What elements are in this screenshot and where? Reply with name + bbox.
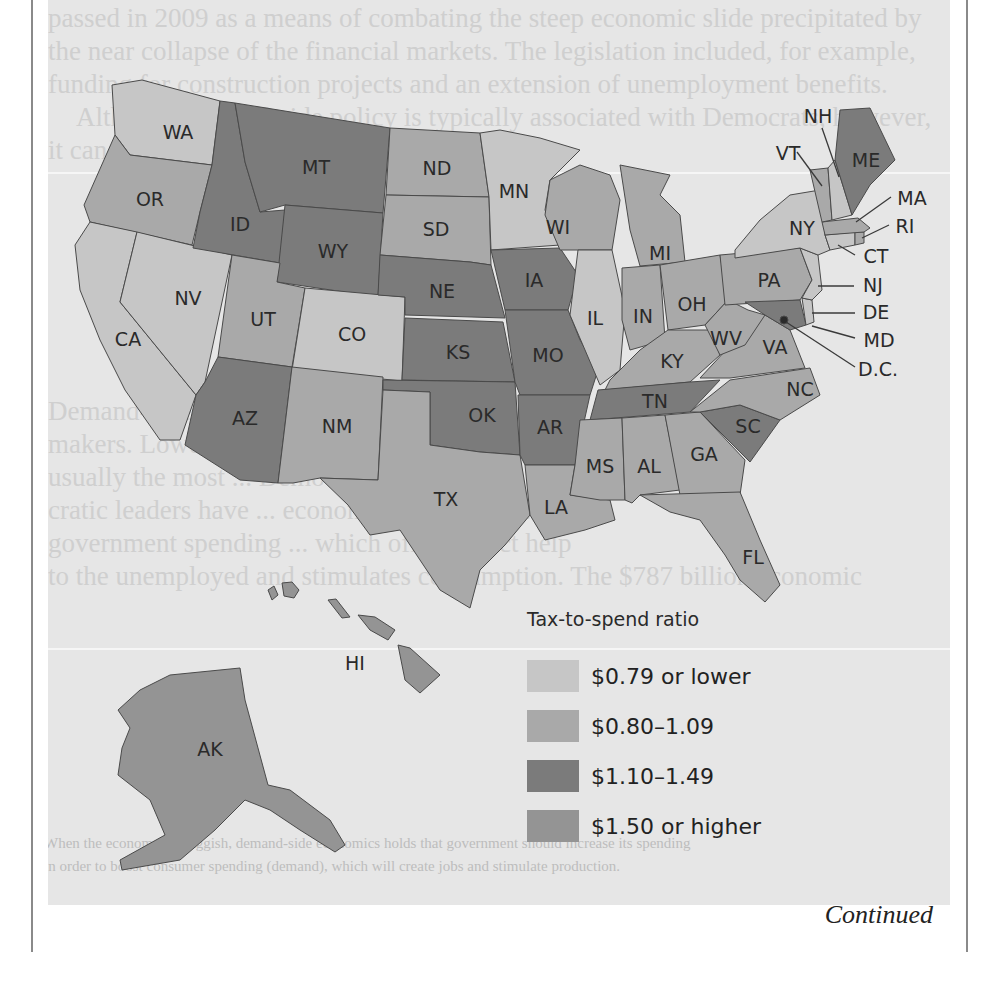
label-OR: OR [136, 188, 164, 210]
label-CT: CT [864, 245, 889, 267]
label-TN: TN [641, 390, 668, 412]
label-ND: ND [423, 157, 452, 179]
legend-item: $0.80–1.09 [527, 710, 714, 742]
legend-title: Tax-to-spend ratio [527, 608, 699, 630]
legend-label: $1.10–1.49 [591, 764, 714, 789]
leader-MA [856, 197, 891, 222]
legend-item: $1.50 or higher [527, 810, 761, 842]
label-NV: NV [174, 287, 201, 309]
label-IL: IL [587, 307, 604, 329]
label-MT: MT [302, 156, 330, 178]
legend-label: $0.79 or lower [591, 664, 751, 689]
label-TX: TX [433, 488, 459, 510]
state-HI-island [398, 645, 440, 693]
legend-swatch [527, 760, 579, 792]
label-PA: PA [757, 269, 780, 291]
label-AR: AR [537, 416, 563, 438]
label-CO: CO [338, 323, 366, 345]
label-NE: NE [429, 280, 455, 302]
label-WA: WA [163, 121, 194, 143]
leader-MD [812, 326, 855, 338]
label-IA: IA [525, 269, 544, 291]
legend-label: $1.50 or higher [591, 814, 761, 839]
label-NC: NC [786, 378, 813, 400]
state-HI-island [282, 582, 299, 598]
state-RI [855, 232, 864, 245]
label-ME: ME [852, 149, 880, 171]
legend-swatch [527, 810, 579, 842]
label-IN: IN [633, 305, 653, 327]
label-GA: GA [690, 443, 718, 465]
state-HI-island [268, 586, 278, 600]
label-AL: AL [637, 455, 661, 477]
label-WI: WI [546, 216, 570, 238]
label-LA: LA [544, 496, 568, 518]
continued-label: Continued [825, 900, 933, 930]
label-UT: UT [250, 308, 276, 330]
label-KY: KY [660, 350, 684, 372]
label-NM: NM [322, 415, 353, 437]
legend-label: $0.80–1.09 [591, 714, 714, 739]
state-HI-island [358, 615, 395, 640]
state-AK [118, 668, 345, 870]
legend-item: $1.10–1.49 [527, 760, 714, 792]
label-OK: OK [468, 404, 496, 426]
label-MD: MD [863, 329, 894, 351]
label-MO: MO [532, 344, 563, 366]
label-AZ: AZ [232, 407, 258, 429]
state-NY [735, 190, 830, 258]
label-CA: CA [115, 328, 141, 350]
label-AK: AK [197, 738, 223, 760]
label-NJ: NJ [863, 274, 883, 296]
state-HI-island [328, 599, 350, 618]
label-FL: FL [742, 546, 764, 568]
legend-swatch [527, 710, 579, 742]
label-DE: DE [863, 301, 890, 323]
label-SC: SC [735, 415, 760, 437]
label-NY: NY [789, 217, 815, 239]
label-VA: VA [763, 336, 788, 358]
label-MI: MI [649, 242, 671, 264]
label-NH: NH [804, 105, 833, 127]
label-SD: SD [423, 218, 450, 240]
label-RI: RI [896, 215, 915, 237]
label-ID: ID [230, 213, 250, 235]
label-OH: OH [677, 293, 706, 315]
label-KS: KS [446, 341, 471, 363]
label-MA: MA [897, 187, 926, 209]
label-WY: WY [318, 240, 349, 262]
label-DC: D.C. [858, 358, 898, 380]
label-MS: MS [586, 455, 614, 477]
label-WV: WV [710, 327, 742, 349]
legend-swatch [527, 660, 579, 692]
legend-item: $0.79 or lower [527, 660, 751, 692]
us-choropleth-map: WA OR CA NV ID MT WY UT CO AZ NM ND SD N… [0, 0, 1003, 1002]
label-MN: MN [499, 180, 530, 202]
label-HI: HI [345, 652, 365, 674]
